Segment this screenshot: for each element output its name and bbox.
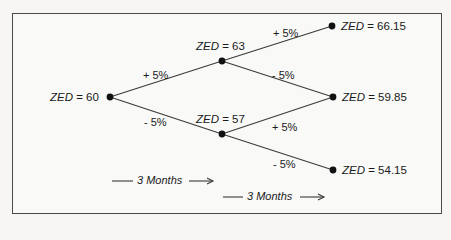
node-down-down-label: ZED = 54.15 (342, 165, 407, 177)
node-up-up-dot (329, 23, 336, 30)
node-up-up-label: ZED = 66.15 (341, 21, 406, 33)
edge-down-up-label: + 5% (272, 122, 297, 133)
node-up-label: ZED = 63 (196, 41, 245, 53)
period-2-label: 3 Months (247, 191, 292, 202)
edge-root-up-label: + 5% (143, 70, 168, 81)
node-down-down-dot (330, 167, 337, 174)
node-down-label: ZED = 57 (196, 114, 245, 126)
edge-up-down-label: - 5% (272, 70, 295, 81)
node-root-label: ZED = 60 (50, 92, 99, 104)
edge-up-up-label: + 5% (273, 28, 298, 39)
node-up-down-label: ZED = 59.85 (342, 92, 407, 104)
node-root-dot (107, 94, 114, 101)
node-down-dot (219, 131, 226, 138)
edge-down-down-label: - 5% (273, 159, 296, 170)
edge-root-down-label: - 5% (144, 117, 167, 128)
period-1-label: 3 Months (137, 175, 182, 186)
node-up-down-dot (330, 94, 337, 101)
node-up-dot (219, 58, 226, 65)
